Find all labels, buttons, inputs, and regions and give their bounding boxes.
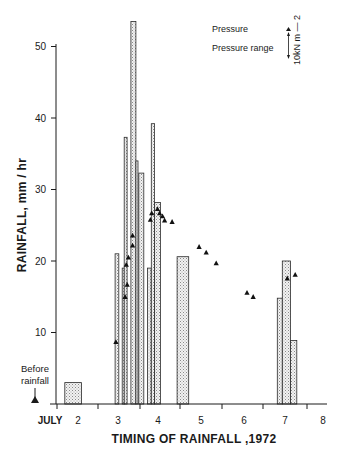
x-axis-title: TIMING OF RAINFALL ,1972: [112, 432, 277, 446]
x-tick-label: 7: [282, 415, 288, 426]
rainfall-bar: [151, 124, 154, 404]
legend-arrow-down-icon: [287, 55, 290, 59]
rainfall-bar: [136, 161, 138, 404]
legend-pressure-range-label: Pressure range: [212, 43, 274, 53]
y-axis-ticks: 1020304050: [35, 41, 56, 338]
rainfall-bar: [177, 257, 189, 404]
x-tick-label: 6: [241, 415, 247, 426]
rainfall-bar: [155, 202, 161, 404]
y-tick-label: 10: [35, 327, 47, 338]
rainfall-bar: [115, 254, 119, 404]
rainfall-bar: [131, 22, 136, 405]
pressure-triangle-icon: [204, 250, 209, 255]
y-tick-label: 50: [35, 41, 47, 52]
pressure-triangle-icon: [251, 294, 256, 299]
legend: Pressure Pressure range 10kN m — 2: [212, 15, 302, 65]
y-tick-label: 30: [35, 184, 47, 195]
x-axis-ticks: JULY2345678: [38, 404, 327, 426]
x-tick-label: 4: [155, 415, 161, 426]
pressure-triangle-icon: [170, 219, 175, 224]
pressure-triangle-icon: [197, 244, 202, 249]
before-rainfall-label-line2: rainfall: [21, 375, 49, 386]
pressure-triangle-icon: [244, 290, 249, 295]
rainfall-bar: [282, 261, 290, 404]
rainfall-bar: [65, 383, 82, 404]
x-tick-label: 2: [75, 415, 81, 426]
rainfall-bar: [139, 173, 144, 404]
legend-pressure-label: Pressure: [212, 24, 248, 34]
pressure-triangle-icon: [162, 218, 167, 223]
legend-triangle-icon: [286, 27, 291, 31]
rainfall-bar: [277, 298, 282, 404]
x-tick-label: 3: [115, 415, 121, 426]
rainfall-bar: [148, 268, 152, 404]
rainfall-chart: 1020304050 JULY2345678 RAINFALL, mm / hr…: [0, 0, 343, 460]
pressure-triangle-icon: [214, 261, 219, 266]
legend-arrow-up-icon: [287, 32, 290, 36]
y-tick-label: 40: [35, 113, 47, 124]
pressure-triangle-icon: [293, 272, 298, 277]
y-axis-title: RAINFALL, mm / hr: [15, 158, 29, 272]
rainfall-bars: [65, 22, 297, 405]
x-tick-label: JULY: [38, 415, 63, 426]
rainfall-bar: [124, 137, 127, 404]
before-rainfall-label-line1: Before: [21, 363, 49, 374]
x-tick-label: 8: [320, 415, 326, 426]
y-tick-label: 20: [35, 256, 47, 267]
legend-scale-label: 10kN m — 2: [292, 15, 302, 65]
rainfall-bar: [291, 340, 297, 404]
before-rainfall-pressure-icon: [31, 396, 39, 403]
x-tick-label: 5: [198, 415, 204, 426]
